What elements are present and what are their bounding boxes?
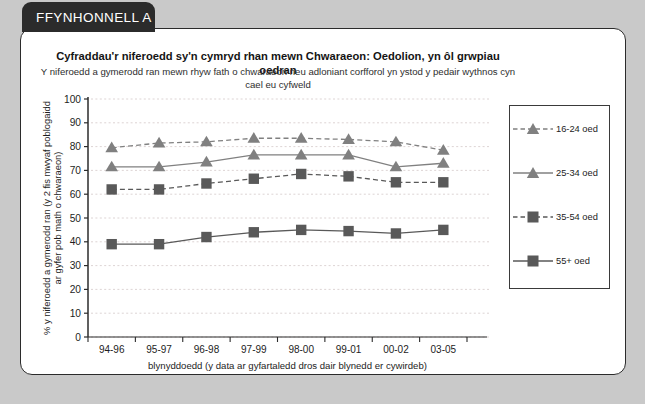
data-point-marker (249, 174, 259, 184)
data-point-marker (438, 177, 448, 187)
data-point-marker (391, 228, 401, 238)
x-axis-tick-label: 98-00 (288, 344, 314, 355)
y-axis-tick-label: 0 (75, 332, 81, 343)
x-axis-tick-label: 95-97 (146, 344, 172, 355)
legend-key-square-icon (528, 212, 539, 223)
legend-key-triangle-icon (510, 119, 556, 139)
source-tab: FFYNHONNELL A (22, 2, 155, 32)
data-point-marker (105, 161, 118, 172)
x-axis-title: blynyddoedd (y data ar gyfartaledd dros … (148, 360, 427, 371)
data-point-marker (106, 184, 116, 194)
x-axis-tick-label: 97-99 (241, 344, 267, 355)
data-point-marker (106, 239, 116, 249)
data-point-marker (343, 171, 353, 181)
legend-key-graphic (510, 207, 556, 227)
legend-key-graphic (510, 119, 556, 139)
legend-key-triangle-icon (510, 163, 556, 183)
chart-legend: 16-24 oed25-34 oed35-54 oed55+ oed (509, 105, 610, 289)
data-point-marker (438, 225, 448, 235)
x-axis-tick-label: 94-96 (99, 344, 125, 355)
data-point-marker (295, 132, 308, 143)
legend-item-label: 25-34 oed (556, 168, 598, 178)
y-axis-tick-label: 30 (70, 260, 82, 271)
y-axis-tick-label: 50 (70, 213, 82, 224)
data-point-marker (296, 225, 306, 235)
legend-key-square-icon (528, 256, 539, 267)
y-axis-tick-label: 10 (70, 308, 82, 319)
x-axis-tick-label: 96-98 (194, 344, 220, 355)
data-point-marker (295, 149, 308, 160)
y-axis-tick-label: 90 (70, 117, 82, 128)
data-point-marker (342, 133, 355, 144)
legend-item-label: 35-54 oed (556, 212, 598, 222)
data-point-marker (247, 132, 260, 143)
series-4 (106, 225, 448, 250)
series-2 (105, 149, 449, 172)
data-point-marker (154, 184, 164, 194)
y-axis-tick-label: 20 (70, 284, 82, 295)
chart-panel: Cyfraddau'r niferoedd sy'n cymryd rhan m… (20, 28, 626, 375)
data-point-marker (153, 137, 166, 148)
y-axis-title: % y niferoedd a gymerodd ran (y 2 fis mw… (41, 101, 63, 335)
x-axis-tick-label: 00-02 (383, 344, 409, 355)
data-point-marker (343, 226, 353, 236)
data-point-marker (201, 178, 211, 188)
data-point-marker (342, 149, 355, 160)
y-axis-title-line: % y niferoedd a gymerodd ran (y 2 fis mw… (41, 101, 52, 335)
data-point-marker (437, 157, 450, 168)
y-axis-tick-label: 40 (70, 236, 82, 247)
x-axis-tick-label: 99-01 (336, 344, 362, 355)
legend-key-graphic (510, 163, 556, 183)
y-axis-tick-label: 100 (64, 94, 81, 105)
source-tab-label: FFYNHONNELL A (36, 10, 152, 25)
data-point-marker (391, 177, 401, 187)
series-3 (106, 169, 448, 195)
data-point-marker (249, 227, 259, 237)
legend-key-square-icon (510, 207, 556, 227)
legend-item-4[interactable]: 55+ oed (510, 250, 611, 272)
legend-item-label: 55+ oed (556, 256, 590, 266)
y-axis-title-line: ar gyfer pob math o chwaraeon) (52, 152, 63, 285)
data-point-marker (201, 232, 211, 242)
legend-item-1[interactable]: 16-24 oed (510, 118, 611, 140)
y-axis-tick-label: 60 (70, 189, 82, 200)
legend-item-2[interactable]: 25-34 oed (510, 162, 611, 184)
series-1 (105, 132, 449, 155)
legend-item-3[interactable]: 35-54 oed (510, 206, 611, 228)
x-axis-tick-label: 03-05 (431, 344, 457, 355)
legend-item-label: 16-24 oed (556, 124, 598, 134)
data-point-marker (296, 169, 306, 179)
y-axis-tick-label: 80 (70, 141, 82, 152)
legend-key-square-icon (510, 251, 556, 271)
legend-key-graphic (510, 251, 556, 271)
data-point-marker (154, 239, 164, 249)
y-axis-tick-label: 70 (70, 165, 82, 176)
data-point-marker (247, 149, 260, 160)
